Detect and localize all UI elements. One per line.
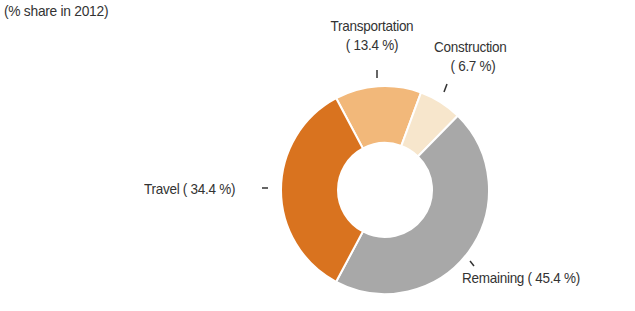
donut-chart [0,0,635,311]
donut-slices [281,86,489,294]
label-transportation-name: Transportation [331,16,414,35]
leader-line-remaining [470,261,474,266]
label-construction: Construction ( 6.7 %) [434,37,507,75]
label-remaining: Remaining ( 45.4 %) [462,268,580,287]
slice-travel [281,98,363,282]
label-transportation-value: ( 13.4 %) [331,35,414,54]
label-travel: Travel ( 34.4 %) [144,179,235,198]
label-construction-name: Construction [434,37,507,56]
leader-line-construction [444,84,447,92]
label-transportation: Transportation ( 13.4 %) [331,16,414,54]
label-construction-value: ( 6.7 %) [434,56,507,75]
